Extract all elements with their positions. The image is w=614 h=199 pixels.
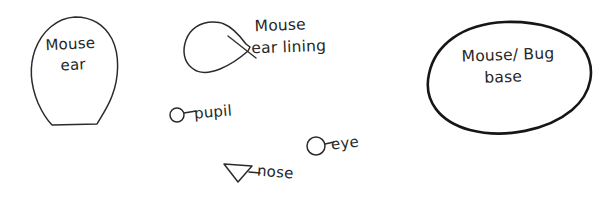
pupil-marker-icon bbox=[170, 108, 184, 122]
label-mouse-bug-base: Mouse/ Bug base bbox=[461, 42, 555, 89]
nose-marker-icon bbox=[224, 164, 252, 182]
label-ear-lining-line2: ear lining bbox=[251, 35, 326, 60]
label-nose: nose bbox=[256, 161, 294, 182]
label-eye: eye bbox=[330, 133, 360, 154]
mouse-ear-lining-shape bbox=[184, 22, 250, 72]
label-base-line1: Mouse/ Bug bbox=[461, 42, 554, 67]
sketch-canvas: Mouse ear Mouse ear lining Mouse/ Bug ba… bbox=[0, 0, 614, 199]
label-mouse-ear-lining: Mouse ear lining bbox=[254, 13, 326, 59]
label-ear-lining-line1: Mouse bbox=[254, 13, 306, 37]
label-mouse-ear-line2: ear bbox=[60, 54, 86, 76]
label-pupil: pupil bbox=[193, 101, 232, 122]
eye-marker-icon bbox=[307, 137, 325, 155]
label-mouse-ear: Mouse ear bbox=[45, 33, 97, 78]
label-base-line2: base bbox=[484, 66, 522, 89]
label-mouse-ear-line1: Mouse bbox=[45, 33, 96, 57]
